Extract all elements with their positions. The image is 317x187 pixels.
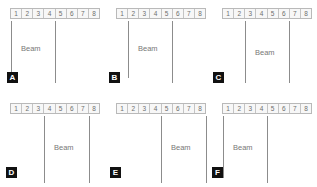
ruler-cell: 7 — [290, 104, 301, 113]
ruler-cell: 8 — [195, 104, 205, 113]
ruler-cell: 3 — [245, 9, 256, 18]
ruler-cell: 5 — [268, 9, 279, 18]
ruler-cell: 2 — [22, 9, 33, 18]
support-line — [89, 116, 90, 183]
panel-b: 1 2 3 4 5 6 7 8 Beam B — [106, 0, 210, 92]
panel-badge-a: A — [7, 72, 18, 83]
ruler-cell: 1 — [223, 9, 234, 18]
ruler-cell: 8 — [89, 104, 99, 113]
ruler-cell: 6 — [279, 9, 290, 18]
beam-label: Beam — [233, 143, 253, 152]
panel-badge-c: C — [213, 72, 224, 83]
ruler-cell: 5 — [162, 9, 173, 18]
ruler-cell: 6 — [279, 104, 290, 113]
ruler-cell: 4 — [150, 9, 161, 18]
ruler-cell: 7 — [290, 9, 301, 18]
ruler-cell: 5 — [56, 9, 67, 18]
ruler-cell: 6 — [67, 104, 78, 113]
ruler-strip-d: 1 2 3 4 5 6 7 8 — [10, 103, 100, 114]
beam-label: Beam — [54, 143, 74, 152]
support-line — [289, 21, 290, 83]
ruler-cell: 3 — [139, 104, 150, 113]
ruler-cell: 1 — [11, 104, 22, 113]
ruler-cell: 5 — [162, 104, 173, 113]
ruler-cell: 3 — [245, 104, 256, 113]
beam-support-figure: 1 2 3 4 5 6 7 8 Beam A 1 2 3 4 5 6 7 8 B… — [0, 0, 317, 187]
ruler-cell: 2 — [234, 104, 245, 113]
ruler-cell: 3 — [33, 104, 44, 113]
ruler-strip-f: 1 2 3 4 5 6 7 8 — [222, 103, 312, 114]
ruler-strip-e: 1 2 3 4 5 6 7 8 — [116, 103, 206, 114]
panel-f: 1 2 3 4 5 6 7 8 Beam F — [212, 95, 316, 187]
ruler-cell: 1 — [117, 104, 128, 113]
ruler-cell: 1 — [11, 9, 22, 18]
ruler-cell: 8 — [195, 9, 205, 18]
ruler-cell: 3 — [33, 9, 44, 18]
beam-label: Beam — [171, 143, 191, 152]
ruler-cell: 6 — [173, 104, 184, 113]
beam-label: Beam — [138, 44, 158, 53]
ruler-cell: 2 — [234, 9, 245, 18]
ruler-cell: 8 — [301, 9, 311, 18]
panel-a: 1 2 3 4 5 6 7 8 Beam A — [0, 0, 104, 92]
panel-d: 1 2 3 4 5 6 7 8 Beam D — [0, 95, 104, 187]
ruler-cell: 2 — [128, 9, 139, 18]
support-line — [206, 116, 207, 183]
ruler-cell: 1 — [223, 104, 234, 113]
panel-e: 1 2 3 4 5 6 7 8 Beam E — [106, 95, 210, 187]
support-line — [161, 116, 162, 183]
ruler-strip-b: 1 2 3 4 5 6 7 8 — [116, 8, 206, 19]
ruler-cell: 6 — [173, 9, 184, 18]
support-line — [245, 21, 246, 83]
panel-badge-b: B — [109, 72, 120, 83]
panel-badge-d: D — [6, 167, 17, 178]
ruler-cell: 4 — [256, 9, 267, 18]
ruler-cell: 7 — [184, 104, 195, 113]
support-line — [11, 21, 12, 78]
panel-c: 1 2 3 4 5 6 7 8 Beam C — [212, 0, 316, 92]
ruler-cell: 4 — [44, 9, 55, 18]
ruler-cell: 4 — [150, 104, 161, 113]
ruler-cell: 3 — [139, 9, 150, 18]
ruler-cell: 2 — [22, 104, 33, 113]
ruler-cell: 1 — [117, 9, 128, 18]
ruler-strip-a: 1 2 3 4 5 6 7 8 — [10, 8, 100, 19]
ruler-cell: 5 — [268, 104, 279, 113]
support-line — [44, 116, 45, 183]
ruler-cell: 7 — [78, 9, 89, 18]
ruler-cell: 6 — [67, 9, 78, 18]
support-line — [223, 116, 224, 178]
ruler-cell: 7 — [78, 104, 89, 113]
ruler-cell: 8 — [89, 9, 99, 18]
support-line — [128, 21, 129, 78]
support-line — [267, 116, 268, 183]
ruler-cell: 5 — [56, 104, 67, 113]
panel-badge-e: E — [110, 167, 121, 178]
ruler-strip-c: 1 2 3 4 5 6 7 8 — [222, 8, 312, 19]
support-line — [172, 21, 173, 83]
panel-badge-f: F — [212, 167, 223, 178]
ruler-cell: 7 — [184, 9, 195, 18]
ruler-cell: 8 — [301, 104, 311, 113]
support-line — [55, 21, 56, 83]
ruler-cell: 4 — [256, 104, 267, 113]
beam-label: Beam — [255, 48, 275, 57]
ruler-cell: 4 — [44, 104, 55, 113]
ruler-cell: 2 — [128, 104, 139, 113]
beam-label: Beam — [21, 44, 41, 53]
